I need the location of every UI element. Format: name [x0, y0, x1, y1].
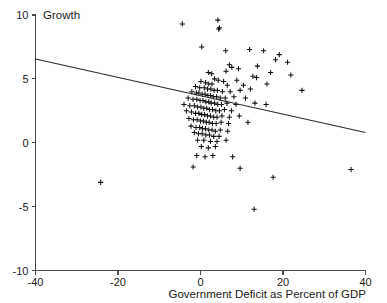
data-point-marker — [247, 47, 252, 52]
data-point-marker — [184, 108, 189, 113]
data-point-marker — [189, 109, 194, 114]
data-point-marker — [261, 48, 266, 53]
y-tick-label: -5 — [19, 201, 29, 213]
data-point-marker — [208, 113, 213, 118]
y-tick-label: 5 — [22, 73, 28, 85]
data-point-marker — [241, 83, 246, 88]
data-point-marker — [268, 70, 273, 75]
data-point-marker — [209, 81, 214, 86]
data-point-marker — [206, 99, 211, 104]
data-point-marker — [207, 132, 212, 137]
y-tick-label: 0 — [22, 137, 28, 149]
data-point-marker — [226, 121, 231, 126]
data-points-group — [98, 18, 354, 212]
data-point-marker — [217, 108, 222, 113]
data-point-marker — [98, 180, 103, 185]
data-point-marker — [223, 95, 228, 100]
data-point-marker — [236, 66, 241, 71]
data-point-marker — [199, 44, 204, 49]
data-point-marker — [192, 130, 197, 135]
data-point-marker — [197, 85, 202, 90]
data-point-marker — [252, 207, 257, 212]
y-tick-label: 10 — [16, 9, 28, 21]
data-point-marker — [225, 83, 230, 88]
data-point-marker — [288, 72, 293, 77]
data-point-marker — [190, 164, 195, 169]
data-point-marker — [201, 138, 206, 143]
data-point-marker — [202, 112, 207, 117]
data-point-marker — [223, 138, 228, 143]
data-point-marker — [195, 117, 200, 122]
data-point-marker — [255, 64, 260, 69]
data-point-marker — [227, 115, 232, 120]
data-point-marker — [299, 88, 304, 93]
data-point-marker — [252, 101, 257, 106]
x-tick-label: -20 — [110, 276, 126, 288]
data-point-marker — [238, 88, 243, 93]
plot-area: 1050-5-10 -40-2002040 Growth Government … — [0, 0, 387, 303]
x-axis-ticks: -40-2002040 — [28, 271, 372, 288]
data-point-marker — [271, 175, 276, 180]
data-point-marker — [210, 107, 215, 112]
data-point-marker — [238, 166, 243, 171]
data-point-marker — [194, 97, 199, 102]
data-point-marker — [230, 154, 235, 159]
data-point-marker — [208, 139, 213, 144]
data-point-marker — [225, 129, 230, 134]
data-point-marker — [206, 145, 211, 150]
data-point-marker — [215, 18, 220, 23]
scatter-chart: 1050-5-10 -40-2002040 Growth Government … — [0, 0, 387, 303]
data-point-marker — [213, 129, 218, 134]
data-point-marker — [195, 138, 200, 143]
data-point-marker — [231, 94, 236, 99]
data-point-marker — [207, 120, 212, 125]
data-point-marker — [217, 25, 222, 30]
data-point-marker — [223, 69, 228, 74]
y-axis-title: Growth — [43, 9, 80, 21]
data-point-marker — [209, 71, 214, 76]
data-point-marker — [212, 101, 217, 106]
y-axis-ticks: 1050-5-10 — [13, 9, 36, 277]
data-point-marker — [218, 127, 223, 132]
data-point-marker — [208, 86, 213, 91]
data-point-marker — [222, 107, 227, 112]
data-point-marker — [229, 65, 234, 70]
data-point-marker — [219, 120, 224, 125]
data-point-marker — [200, 131, 205, 136]
data-point-marker — [223, 48, 228, 53]
data-point-marker — [273, 57, 278, 62]
data-point-marker — [199, 144, 204, 149]
data-point-marker — [188, 124, 193, 129]
data-point-marker — [237, 113, 242, 118]
data-point-marker — [202, 154, 207, 159]
data-point-marker — [213, 144, 218, 149]
data-point-marker — [215, 88, 220, 93]
data-point-marker — [202, 85, 207, 90]
data-point-marker — [194, 153, 199, 158]
x-tick-label: -40 — [28, 276, 44, 288]
data-point-marker — [204, 106, 209, 111]
data-point-marker — [197, 125, 202, 130]
data-point-marker — [285, 60, 290, 65]
data-point-marker — [243, 95, 248, 100]
data-point-marker — [219, 113, 224, 118]
data-point-marker — [181, 102, 186, 107]
data-point-marker — [211, 134, 216, 139]
data-point-marker — [196, 111, 201, 116]
data-point-marker — [186, 95, 191, 100]
data-point-marker — [227, 62, 232, 67]
data-point-marker — [198, 79, 203, 84]
data-point-marker — [203, 80, 208, 85]
data-point-marker — [198, 104, 203, 109]
data-point-marker — [192, 103, 197, 108]
data-point-marker — [200, 98, 205, 103]
x-axis-title: Government Deficit as Percent of GDP — [169, 288, 367, 300]
data-point-marker — [193, 84, 198, 89]
data-point-marker — [348, 167, 353, 172]
data-point-marker — [254, 75, 259, 80]
data-point-marker — [216, 78, 221, 83]
y-tick-label: -10 — [13, 265, 29, 277]
data-point-marker — [250, 74, 255, 79]
data-point-marker — [263, 102, 268, 107]
data-point-marker — [221, 79, 226, 84]
